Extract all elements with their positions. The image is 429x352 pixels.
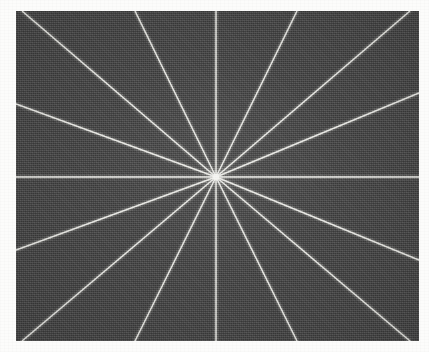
spoke-045 (216, 11, 410, 177)
spoke-022 (216, 93, 419, 177)
spoke-337 (216, 177, 419, 260)
radial-star-diagram (16, 11, 419, 341)
spoke-225 (22, 177, 216, 341)
spoke-135 (22, 11, 216, 177)
center-glow (210, 171, 223, 184)
spoke-315 (216, 177, 410, 341)
star-plate (16, 11, 419, 341)
spoke-067 (216, 11, 297, 177)
spoke-292 (216, 177, 297, 341)
figure-root (0, 0, 429, 352)
